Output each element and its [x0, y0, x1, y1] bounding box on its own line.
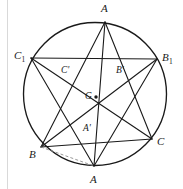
point-label-text: C [157, 135, 164, 147]
point-label-c: C [157, 136, 164, 147]
point-label-text: G [85, 91, 92, 101]
segment-Atop-Abot [94, 22, 105, 166]
point-label-text: A [90, 173, 97, 185]
scan-edge-artifact [7, 0, 8, 189]
point-dot-g [94, 95, 97, 98]
point-label-b1: B1 [162, 52, 173, 66]
point-label-text: A' [83, 123, 91, 133]
point-label-c1: C1 [14, 50, 25, 64]
point-label-b-prime: B' [116, 66, 124, 76]
point-label-text: B' [116, 65, 124, 75]
point-label-text: B [162, 51, 169, 63]
point-label-b: B [29, 149, 36, 160]
point-label-a-prime: A' [83, 124, 91, 134]
segment-Atop-B [41, 22, 105, 147]
point-label-g: G [85, 92, 92, 102]
segment-Abot-B1 [94, 59, 157, 166]
point-label-text: B [29, 148, 36, 160]
point-label-subscript: 1 [169, 57, 173, 66]
point-label-text: A [101, 2, 108, 14]
segment-C1-B1 [31, 58, 157, 59]
segment-B-Abot-dashed [41, 147, 94, 166]
point-label-subscript: 1 [21, 55, 25, 64]
point-label-c-prime: C' [61, 66, 69, 76]
segment-B1-B [41, 59, 157, 147]
point-label-a-bottom: A [90, 174, 97, 185]
point-label-a-top: A [101, 3, 108, 14]
point-label-text: C' [61, 65, 69, 75]
